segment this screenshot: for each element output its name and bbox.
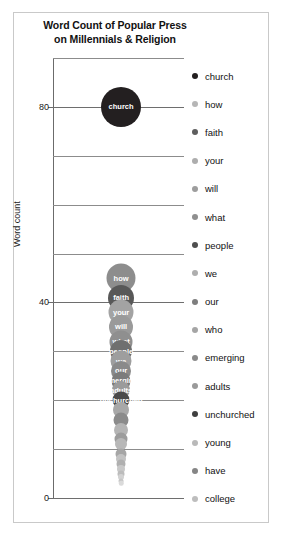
- legend-label: what: [205, 212, 225, 223]
- legend-swatch-icon: [192, 186, 198, 192]
- legend-item-college[interactable]: college: [192, 485, 272, 513]
- legend-swatch-icon: [192, 270, 198, 276]
- y-axis-title: Word count: [12, 201, 22, 247]
- legend-swatch-icon: [192, 73, 198, 79]
- legend-swatch-icon: [192, 440, 198, 446]
- legend-swatch-icon: [192, 496, 198, 502]
- legend-swatch-icon: [192, 411, 198, 417]
- legend-item-unchurched[interactable]: unchurched: [192, 400, 272, 428]
- legend-label: have: [205, 465, 226, 476]
- legend-item-young[interactable]: young: [192, 428, 272, 456]
- legend-item-people[interactable]: people: [192, 231, 272, 259]
- legend-swatch-icon: [192, 383, 198, 389]
- legend-label: who: [205, 324, 222, 335]
- legend-label: adults: [205, 381, 230, 392]
- legend-item-we[interactable]: we: [192, 259, 272, 287]
- chart-figure: Word Count of Popular Press on Millennia…: [0, 0, 284, 535]
- legend-label: we: [205, 268, 217, 279]
- bubble-point: [119, 481, 124, 486]
- legend-label: college: [205, 493, 235, 504]
- legend-item-who[interactable]: who: [192, 316, 272, 344]
- legend-label: faith: [205, 127, 223, 138]
- gridline: [53, 498, 184, 499]
- legend-swatch-icon: [192, 299, 198, 305]
- legend-label: people: [205, 240, 234, 251]
- legend-swatch-icon: [192, 101, 198, 107]
- y-axis-tick-label: 40: [39, 297, 49, 307]
- legend-label: will: [205, 183, 218, 194]
- y-axis-tick-label: 80: [39, 102, 49, 112]
- chart-legend: churchhowfaithyourwillwhatpeopleweourwho…: [192, 62, 272, 513]
- legend-item-will[interactable]: will: [192, 175, 272, 203]
- legend-item-your[interactable]: your: [192, 147, 272, 175]
- chart-title: Word Count of Popular Press on Millennia…: [20, 18, 210, 46]
- legend-item-our[interactable]: our: [192, 288, 272, 316]
- legend-swatch-icon: [192, 468, 198, 474]
- legend-label: unchurched: [205, 409, 255, 420]
- bubble-label: how: [114, 274, 129, 282]
- bubble-series: churchhowfaithyourwillwhatpeopleweoureme…: [53, 58, 184, 498]
- legend-item-emerging[interactable]: emerging: [192, 344, 272, 372]
- legend-swatch-icon: [192, 158, 198, 164]
- bubble-label: church: [109, 103, 134, 111]
- plot-area: 80400 churchhowfaithyourwillwhatpeoplewe…: [53, 58, 184, 498]
- y-axis-tick-label: 0: [44, 493, 49, 503]
- legend-label: emerging: [205, 352, 245, 363]
- legend-item-what[interactable]: what: [192, 203, 272, 231]
- legend-label: our: [205, 296, 219, 307]
- legend-item-have[interactable]: have: [192, 457, 272, 485]
- legend-item-church[interactable]: church: [192, 62, 272, 90]
- legend-item-faith[interactable]: faith: [192, 118, 272, 146]
- legend-label: how: [205, 99, 222, 110]
- legend-label: church: [205, 71, 234, 82]
- legend-label: young: [205, 437, 231, 448]
- legend-swatch-icon: [192, 327, 198, 333]
- legend-swatch-icon: [192, 214, 198, 220]
- legend-item-how[interactable]: how: [192, 90, 272, 118]
- chart-title-line-2: on Millennials & Religion: [20, 32, 210, 46]
- legend-item-adults[interactable]: adults: [192, 372, 272, 400]
- legend-swatch-icon: [192, 242, 198, 248]
- chart-title-line-1: Word Count of Popular Press: [20, 18, 210, 32]
- legend-label: your: [205, 155, 223, 166]
- legend-swatch-icon: [192, 129, 198, 135]
- bubble-point: church: [101, 87, 141, 127]
- legend-swatch-icon: [192, 355, 198, 361]
